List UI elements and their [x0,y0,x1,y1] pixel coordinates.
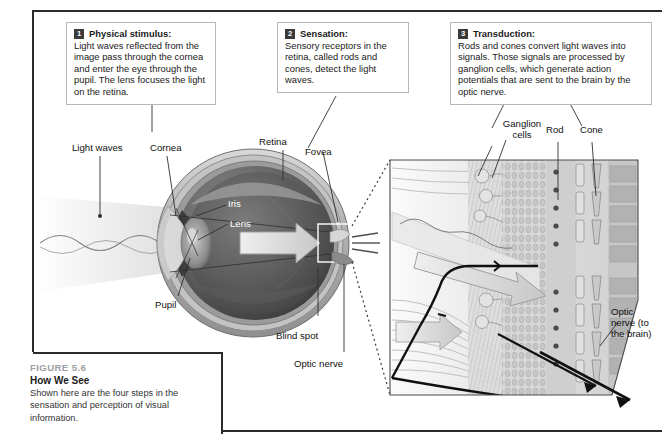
callout-badge-2: 2 [285,29,295,39]
callout-title-1: Physical stimulus: [89,28,171,40]
callout-title-3: Transduction: [473,28,535,40]
callout-body-3: Rods and cones convert light waves into … [458,40,644,98]
label-cornea: Cornea [150,142,181,153]
frame-notch-mask [0,352,33,436]
callout-title-2: Sensation: [300,28,348,40]
label-cone: Cone [580,124,603,135]
label-lens: Lens [230,218,251,229]
callout-badge-1: 1 [74,29,84,39]
figure-title: How We See [30,375,210,386]
figure-caption: FIGURE 5.6 How We See Shown here are the… [30,362,210,424]
label-retina: Retina [259,136,287,147]
figure-caption-text: Shown here are the four steps in the sen… [30,387,210,424]
callout-badge-3: 3 [458,29,468,39]
figure-canvas: 1 Physical stimulus: Light waves reflect… [0,0,665,445]
callout-body-1: Light waves reflected from the image pas… [74,40,208,98]
callout-box-transduction: 3 Transduction: Rods and cones convert l… [450,22,652,105]
label-rod: Rod [546,124,564,135]
label-blind-spot: Blind spot [276,330,318,341]
label-pupil: Pupil [155,299,176,310]
label-optic-nerve: Optic nerve [294,358,343,369]
callout-body-2: Sensory receptors in the retina, called … [285,40,401,86]
label-optic-nerve-to-brain: Optic nerve (to the brain) [611,306,659,339]
figure-number: FIGURE 5.6 [30,362,210,373]
callout-box-sensation: 2 Sensation: Sensory receptors in the re… [277,22,409,93]
label-iris: Iris [228,198,241,209]
label-light-waves: Light waves [72,142,123,153]
label-fovea: Fovea [305,146,332,157]
callout-box-physical-stimulus: 1 Physical stimulus: Light waves reflect… [66,22,216,105]
label-ganglion-cells: Ganglion cells [494,118,550,140]
